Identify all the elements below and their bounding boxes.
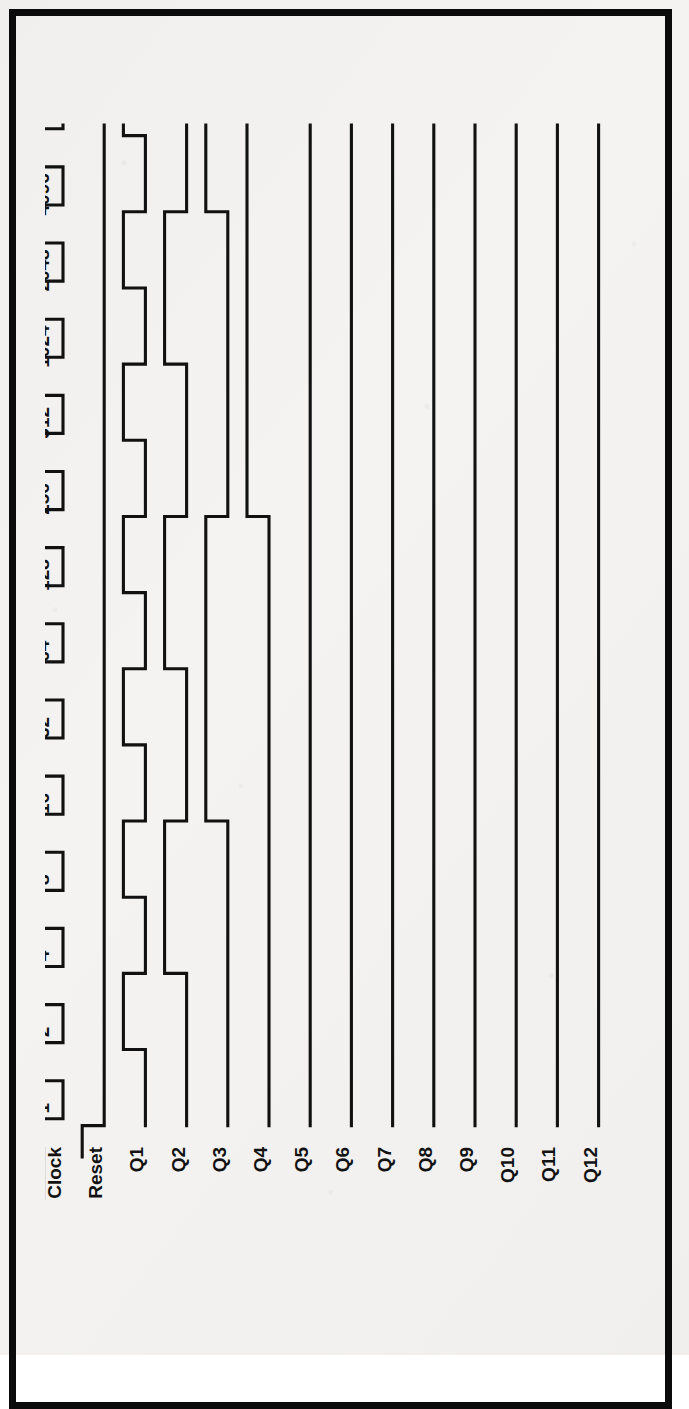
signal-label-q12: Q12 <box>579 1147 600 1183</box>
signal-label-reset: Reset <box>85 1146 106 1198</box>
time-tick-label-2048: 2048 <box>45 249 53 291</box>
time-tick-label-32: 32 <box>45 716 53 737</box>
signal-label-q3: Q3 <box>208 1147 229 1172</box>
timing-diagram-svg: 1248163264128256512102420484096 ClockRes… <box>45 113 645 1243</box>
time-tick-label-4: 4 <box>45 950 53 961</box>
waveform-q4 <box>247 125 269 1126</box>
signal-label-q1: Q1 <box>126 1146 147 1172</box>
waveform-q2 <box>164 125 186 1126</box>
time-tick-label-2: 2 <box>45 1026 53 1037</box>
waveform-q1 <box>123 125 145 1126</box>
time-tick-label-4096: 4096 <box>45 173 53 215</box>
time-tick-label-8: 8 <box>45 874 53 885</box>
time-tick-label-1024: 1024 <box>45 325 53 368</box>
signal-name-labels: ClockResetQ1Q2Q3Q4Q5Q6Q7Q8Q9Q10Q11Q12 <box>45 1146 601 1200</box>
signal-label-clock: Clock <box>45 1146 65 1198</box>
signal-label-q8: Q8 <box>414 1147 435 1172</box>
signal-label-q9: Q9 <box>456 1147 477 1172</box>
signal-label-q4: Q4 <box>250 1146 271 1172</box>
signal-label-q10: Q10 <box>497 1147 518 1183</box>
signal-label-q2: Q2 <box>167 1147 188 1172</box>
signal-label-q7: Q7 <box>373 1147 394 1172</box>
timing-diagram-stage: 1248163264128256512102420484096 ClockRes… <box>45 113 645 1243</box>
time-tick-label-64: 64 <box>45 640 53 662</box>
time-tick-label-16: 16 <box>45 792 53 813</box>
waveform-q3 <box>205 125 227 1126</box>
waveform-reset <box>82 125 104 1157</box>
signal-label-q5: Q5 <box>291 1146 312 1172</box>
waveform-traces <box>45 125 599 1157</box>
time-axis-tick-labels: 1248163264128256512102420484096 <box>45 173 53 1113</box>
signal-label-q6: Q6 <box>332 1147 353 1172</box>
signal-label-q11: Q11 <box>538 1146 559 1181</box>
time-tick-label-1: 1 <box>45 1102 53 1113</box>
